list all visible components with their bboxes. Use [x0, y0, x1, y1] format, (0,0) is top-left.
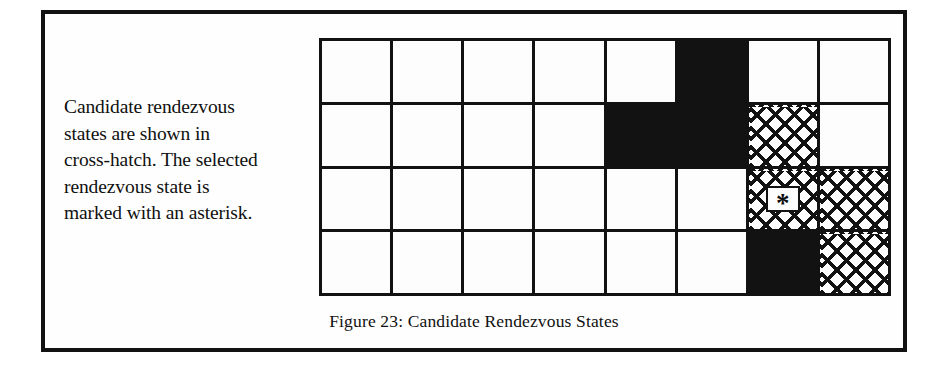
- grid-cell-r1-c3: [464, 41, 535, 105]
- grid-cell-r4-c7: [749, 232, 820, 296]
- grid-cell-r4-c1: [322, 232, 393, 296]
- state-grid: *: [319, 38, 891, 296]
- grid-cell-r3-c3: [464, 169, 535, 233]
- grid-cell-r1-c2: [393, 41, 464, 105]
- legend-line: states are shown in: [64, 121, 314, 148]
- grid-cell-r3-c4: [535, 169, 606, 233]
- figure-frame: Candidate rendezvous states are shown in…: [41, 10, 907, 352]
- grid-cell-r2-c6: [678, 105, 749, 169]
- grid-cell-r3-c5: [607, 169, 678, 233]
- grid-cell-r2-c8: [820, 105, 891, 169]
- grid-cell-r3-c7: *: [749, 169, 820, 233]
- grid-cell-r1-c1: [322, 41, 393, 105]
- grid-cell-r3-c1: [322, 169, 393, 233]
- grid-cell-r4-c3: [464, 232, 535, 296]
- legend-line: cross-hatch. The selected: [64, 147, 314, 174]
- grid-cell-r4-c8: [820, 232, 891, 296]
- grid-cell-r1-c6: [678, 41, 749, 105]
- grid-cell-r4-c4: [535, 232, 606, 296]
- grid-cell-r2-c2: [393, 105, 464, 169]
- grid-cell-r2-c5: [607, 105, 678, 169]
- grid-cell-r1-c7: [749, 41, 820, 105]
- grid-cell-r2-c7: [749, 105, 820, 169]
- grid-cell-r4-c6: [678, 232, 749, 296]
- legend-line: rendezvous state is: [64, 174, 314, 201]
- figure-legend-text: Candidate rendezvous states are shown in…: [64, 94, 314, 227]
- grid-cell-r2-c4: [535, 105, 606, 169]
- grid-cell-r4-c5: [607, 232, 678, 296]
- grid-cell-r1-c5: [607, 41, 678, 105]
- grid-cell-r3-c6: [678, 169, 749, 233]
- legend-line: Candidate rendezvous: [64, 94, 314, 121]
- selected-rendezvous-marker: *: [766, 186, 800, 212]
- grid-cell-r2-c3: [464, 105, 535, 169]
- legend-line: marked with an asterisk.: [64, 200, 314, 227]
- grid-cell-r3-c2: [393, 169, 464, 233]
- asterisk-icon: *: [776, 190, 790, 217]
- grid-cell-r2-c1: [322, 105, 393, 169]
- figure-caption: Figure 23: Candidate Rendezvous States: [45, 311, 903, 332]
- grid-cell-r3-c8: [820, 169, 891, 233]
- grid-cell-r1-c8: [820, 41, 891, 105]
- grid-cell-r1-c4: [535, 41, 606, 105]
- grid-cell-r4-c2: [393, 232, 464, 296]
